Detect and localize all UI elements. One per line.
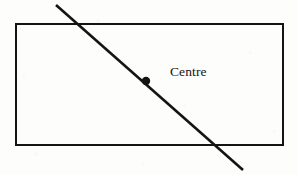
centre-point-marker xyxy=(142,77,150,85)
figure-canvas: Centre xyxy=(0,0,298,175)
centre-label: Centre xyxy=(170,64,207,79)
diagram-drawing xyxy=(0,0,298,175)
rectangle-outline xyxy=(16,24,283,145)
